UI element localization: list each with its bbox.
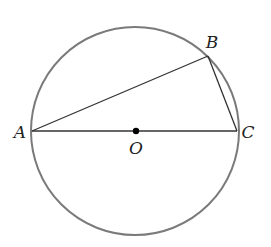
label-a: A (12, 122, 26, 142)
center-point-o (133, 128, 139, 134)
circle-diagram: A B C O (0, 0, 271, 247)
label-b: B (205, 32, 219, 52)
label-o: O (129, 138, 143, 158)
segment-ab (32, 56, 208, 131)
label-c: C (241, 122, 254, 142)
